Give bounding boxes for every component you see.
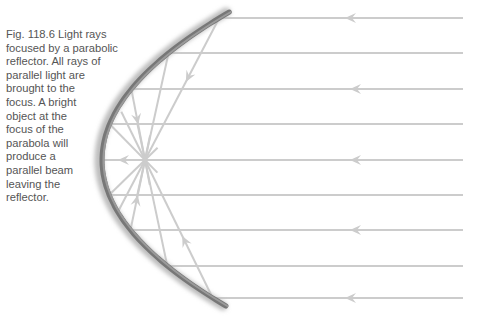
- reflector-diagram: [0, 0, 488, 327]
